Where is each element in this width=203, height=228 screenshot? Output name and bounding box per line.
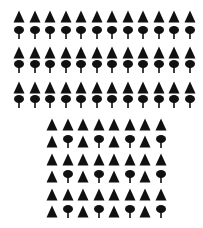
tree-icon bbox=[44, 60, 56, 73]
triangle-icon bbox=[13, 81, 25, 94]
tree-icon bbox=[137, 95, 149, 108]
triangle-icon bbox=[46, 135, 58, 148]
triangle-icon bbox=[155, 118, 167, 131]
tree-icon bbox=[137, 60, 149, 73]
triangle-icon bbox=[122, 46, 134, 59]
tree-icon bbox=[184, 60, 196, 73]
triangle-icon bbox=[108, 205, 120, 218]
tree-icon bbox=[75, 26, 87, 39]
tree-icon bbox=[124, 170, 136, 183]
tree-icon bbox=[93, 205, 105, 218]
triangle-icon bbox=[155, 153, 167, 166]
triangle-icon bbox=[77, 205, 89, 218]
triangle-icon bbox=[91, 10, 103, 23]
tree-icon bbox=[93, 170, 105, 183]
tree-icon bbox=[60, 26, 72, 39]
triangle-icon bbox=[153, 46, 165, 59]
triangle-icon bbox=[46, 118, 58, 131]
tree-icon bbox=[62, 135, 74, 148]
triangle-icon bbox=[77, 188, 89, 201]
tree-icon bbox=[62, 205, 74, 218]
triangle-icon bbox=[184, 10, 196, 23]
triangle-icon bbox=[122, 10, 134, 23]
tree-icon bbox=[168, 26, 180, 39]
triangle-icon bbox=[108, 153, 120, 166]
triangle-icon bbox=[93, 118, 105, 131]
triangle-icon bbox=[108, 135, 120, 148]
triangle-icon bbox=[29, 46, 41, 59]
triangle-icon bbox=[29, 81, 41, 94]
triangle-icon bbox=[60, 46, 72, 59]
tree-icon bbox=[184, 26, 196, 39]
triangle-icon bbox=[77, 135, 89, 148]
tree-icon bbox=[62, 170, 74, 183]
triangle-icon bbox=[91, 46, 103, 59]
triangle-icon bbox=[106, 10, 118, 23]
tree-icon bbox=[44, 95, 56, 108]
triangle-icon bbox=[93, 153, 105, 166]
triangle-icon bbox=[13, 46, 25, 59]
tree-icon bbox=[106, 95, 118, 108]
triangle-icon bbox=[75, 81, 87, 94]
triangle-icon bbox=[153, 81, 165, 94]
triangle-icon bbox=[108, 118, 120, 131]
tree-icon bbox=[75, 95, 87, 108]
tree-icon bbox=[91, 60, 103, 73]
tree-icon bbox=[184, 95, 196, 108]
triangle-icon bbox=[46, 170, 58, 183]
triangle-icon bbox=[139, 118, 151, 131]
triangle-icon bbox=[122, 81, 134, 94]
tree-icon bbox=[155, 170, 167, 183]
tree-icon bbox=[44, 26, 56, 39]
tree-icon bbox=[168, 95, 180, 108]
triangle-icon bbox=[62, 188, 74, 201]
tree-icon bbox=[168, 60, 180, 73]
tree-icon bbox=[29, 26, 41, 39]
triangle-icon bbox=[44, 81, 56, 94]
triangle-icon bbox=[137, 81, 149, 94]
triangle-icon bbox=[124, 153, 136, 166]
triangle-icon bbox=[77, 170, 89, 183]
triangle-icon bbox=[108, 188, 120, 201]
triangle-icon bbox=[60, 81, 72, 94]
triangle-icon bbox=[168, 46, 180, 59]
tree-icon bbox=[29, 60, 41, 73]
triangle-icon bbox=[184, 46, 196, 59]
tree-icon bbox=[153, 60, 165, 73]
triangle-icon bbox=[77, 118, 89, 131]
triangle-icon bbox=[168, 10, 180, 23]
tree-icon bbox=[137, 26, 149, 39]
triangle-icon bbox=[139, 205, 151, 218]
triangle-icon bbox=[139, 135, 151, 148]
triangle-icon bbox=[46, 188, 58, 201]
tree-icon bbox=[106, 26, 118, 39]
triangle-icon bbox=[153, 10, 165, 23]
triangle-icon bbox=[93, 188, 105, 201]
tree-icon bbox=[13, 95, 25, 108]
tree-icon bbox=[106, 60, 118, 73]
tree-icon bbox=[124, 135, 136, 148]
triangle-icon bbox=[44, 10, 56, 23]
tree-icon bbox=[153, 95, 165, 108]
tree-icon bbox=[93, 135, 105, 148]
tree-icon bbox=[91, 26, 103, 39]
tree-icon bbox=[155, 135, 167, 148]
triangle-icon bbox=[75, 46, 87, 59]
tree-icon bbox=[29, 95, 41, 108]
triangle-icon bbox=[108, 170, 120, 183]
tree-icon bbox=[13, 60, 25, 73]
tree-icon bbox=[60, 95, 72, 108]
triangle-icon bbox=[46, 205, 58, 218]
triangle-icon bbox=[137, 46, 149, 59]
triangle-icon bbox=[139, 188, 151, 201]
triangle-icon bbox=[91, 81, 103, 94]
triangle-icon bbox=[155, 188, 167, 201]
triangle-icon bbox=[62, 153, 74, 166]
triangle-icon bbox=[106, 46, 118, 59]
tree-icon bbox=[122, 26, 134, 39]
tree-icon bbox=[153, 26, 165, 39]
tree-icon bbox=[13, 26, 25, 39]
triangle-icon bbox=[168, 81, 180, 94]
tree-icon bbox=[122, 60, 134, 73]
triangle-icon bbox=[139, 153, 151, 166]
